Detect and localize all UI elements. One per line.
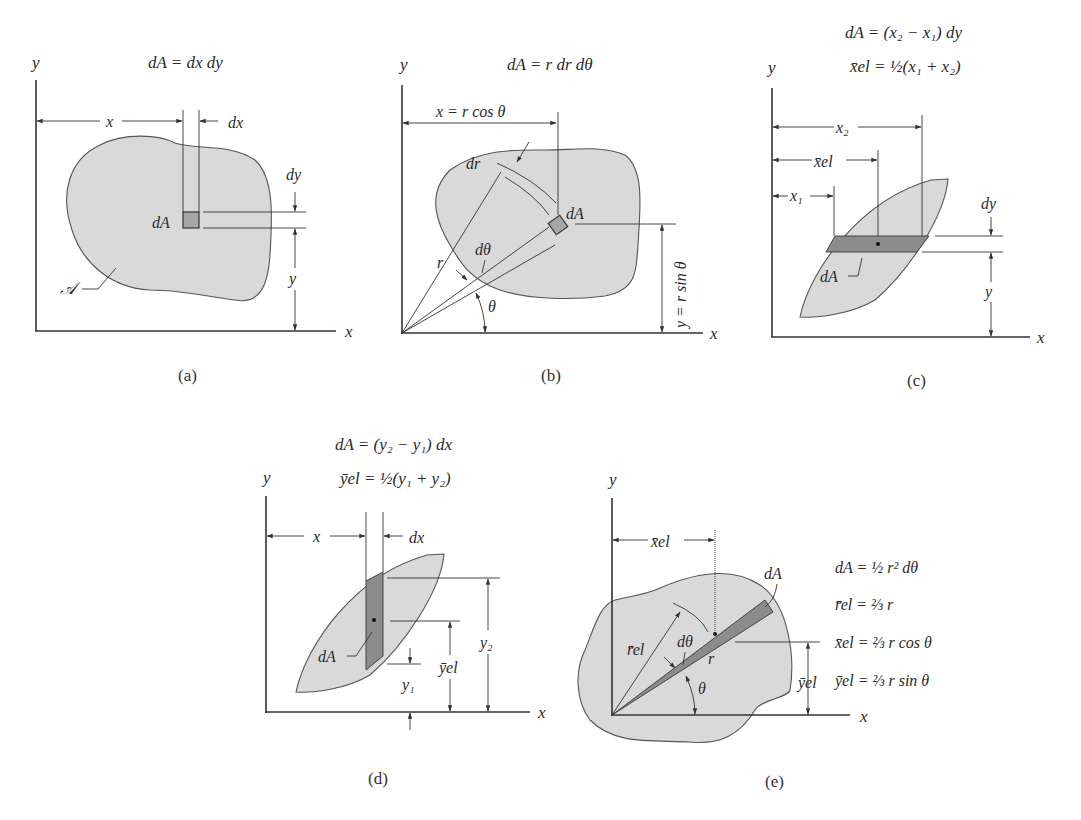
x1-label-c: x₁ <box>789 187 803 204</box>
y-axis-label-a: y <box>30 53 40 72</box>
caption-d: (d) <box>368 769 388 788</box>
r-label-b: r <box>437 254 444 271</box>
xel-label-e: x̄el <box>650 533 670 550</box>
dA-label-e: dA <box>764 565 782 582</box>
panel-c: y x dA = (x₂ − x₁) dy x̄el = ½(x₁ + x₂) … <box>766 23 1045 390</box>
formula-a: dA = dx dy <box>148 53 223 72</box>
dy-label-a: dy <box>286 166 302 184</box>
y-dim-label-c: y <box>983 283 993 301</box>
dy-label-c: dy <box>981 195 997 213</box>
y-axis-label-c: y <box>766 58 776 77</box>
x-axis-label-e: x <box>859 707 868 726</box>
formula-b: dA = r dr dθ <box>507 55 593 74</box>
element-dA-a <box>183 212 199 228</box>
yel-label-d: ȳel <box>437 659 458 677</box>
formula-e-line4: ȳel = ⅔ r sin θ <box>833 672 929 690</box>
y-axis-label-b: y <box>398 55 408 74</box>
theta-label-e: θ <box>698 680 706 697</box>
dA-label-a: dA <box>152 214 170 231</box>
y-axis-label-e: y <box>607 470 617 489</box>
x-axis-label-d: x <box>537 703 546 722</box>
panel-a: y x dA = dx dy dA x dx dy y 𝒜 (a) <box>30 53 353 385</box>
formula-d-line2: ȳel = ½(y₁ + y₂) <box>338 469 451 488</box>
formula-e-line3: x̄el = ⅔ r cos θ <box>834 634 932 651</box>
x-axis-label-c: x <box>1036 328 1045 347</box>
rel-label-e: r̄el <box>627 641 645 658</box>
xel-label-c: x̄el <box>813 153 833 170</box>
x2-label-c: x₂ <box>835 119 849 136</box>
dtheta-label-e: dθ <box>677 633 693 650</box>
formula-c-line1: dA = (x₂ − x₁) dy <box>845 23 963 42</box>
yel-label-e: ȳel <box>796 674 817 692</box>
caption-a: (a) <box>178 366 197 385</box>
region-e-shape <box>578 574 792 743</box>
dA-label-d: dA <box>318 648 336 665</box>
panel-e: y x x̄el r̄el dA dθ r θ ȳel dA = ½ r² dθ… <box>578 470 932 791</box>
y-dim-label-a: y <box>287 270 297 288</box>
y2-label-d: y₂ <box>478 634 493 652</box>
figure-canvas: y x dA = dx dy dA x dx dy y 𝒜 (a) y <box>0 0 1081 820</box>
y-dim-label-b: y = r sin θ <box>672 261 690 330</box>
panel-d: y x dA = (y₂ − y₁) dx ȳel = ½(y₁ + y₂) x… <box>261 435 546 788</box>
dtheta-label-b: dθ <box>475 241 491 258</box>
x-dim-label-d: x <box>312 528 320 545</box>
x-axis-label-a: x <box>344 322 353 341</box>
formula-e-line2: r̄el = ⅔ r <box>835 596 894 613</box>
dr-label-b: dr <box>466 155 481 172</box>
dA-label-c: dA <box>820 268 838 285</box>
region-label-a: 𝒜 <box>60 279 81 298</box>
theta-label-b: θ <box>488 298 496 315</box>
caption-c: (c) <box>907 371 926 390</box>
y-axis-label-d: y <box>261 468 271 487</box>
caption-b: (b) <box>541 366 561 385</box>
formula-e-line1: dA = ½ r² dθ <box>835 559 918 576</box>
formula-c-line2: x̄el = ½(x₁ + x₂) <box>849 57 961 76</box>
dx-label-a: dx <box>228 114 243 131</box>
formula-d-line1: dA = (y₂ − y₁) dx <box>335 435 453 454</box>
r-label-e: r <box>708 650 715 667</box>
dx-label-d: dx <box>409 529 424 546</box>
x-dim-label-b: x = r cos θ <box>435 103 505 120</box>
caption-e: (e) <box>765 772 784 791</box>
panel-b: y x dA = r dr dθ x = r cos θ dr dA r dθ … <box>398 55 718 385</box>
y1-label-d: y₁ <box>400 676 415 694</box>
x-dim-label-a: x <box>105 113 113 130</box>
dA-label-b: dA <box>566 205 584 222</box>
x-axis-label-b: x <box>709 324 718 343</box>
